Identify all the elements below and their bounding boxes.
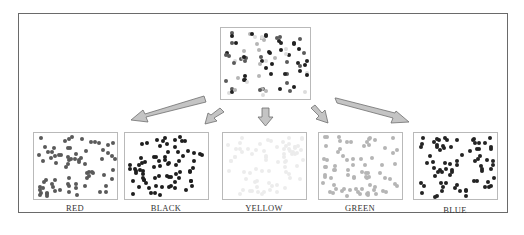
dot (346, 173, 350, 177)
dot (254, 167, 258, 171)
dot (128, 167, 132, 171)
dot (174, 163, 178, 167)
arrow-to-blue (335, 98, 409, 123)
dot (244, 177, 248, 181)
dot (295, 151, 299, 155)
dot (455, 183, 459, 187)
dot (276, 160, 280, 164)
dot (460, 153, 464, 157)
dot (421, 136, 425, 140)
dot (422, 184, 426, 188)
dot (53, 178, 57, 182)
dot (338, 147, 342, 151)
dot (324, 144, 328, 148)
arrow-to-black (205, 108, 224, 124)
dot (328, 190, 332, 194)
dot (87, 174, 91, 178)
dot (431, 160, 435, 164)
dot (137, 185, 141, 189)
arrow-to-green (311, 105, 328, 123)
dot (383, 146, 387, 150)
dot (227, 169, 231, 173)
dot (391, 151, 395, 155)
dot (340, 189, 344, 193)
dot (173, 145, 177, 149)
dot (492, 176, 496, 180)
dot (288, 176, 292, 180)
dot (74, 152, 78, 156)
dot (464, 188, 468, 192)
dot (173, 180, 177, 184)
dot (41, 186, 45, 190)
dot (250, 152, 254, 156)
dot (188, 170, 192, 174)
dot (373, 138, 377, 142)
dot (351, 157, 355, 161)
dot (157, 159, 161, 163)
dot (137, 163, 141, 167)
dot (74, 186, 78, 190)
dot (67, 176, 71, 180)
dot (177, 159, 181, 163)
dot (73, 157, 77, 161)
dot (365, 140, 369, 144)
yellow-label: YELLOW (219, 203, 309, 213)
dot (173, 138, 177, 142)
dot (173, 186, 177, 190)
dot (366, 193, 370, 197)
dot (98, 190, 102, 194)
red-label: RED (30, 203, 120, 213)
dot (455, 138, 459, 142)
dot (83, 162, 87, 166)
dot (63, 139, 67, 143)
dot (163, 155, 167, 159)
dot (177, 176, 181, 180)
dot (45, 192, 49, 196)
dot (158, 144, 162, 148)
dot (189, 179, 193, 183)
dot (100, 157, 104, 161)
dot (458, 189, 462, 193)
dot (275, 145, 279, 149)
dot (334, 187, 338, 191)
dot (229, 159, 233, 163)
dot (420, 191, 424, 195)
dot (345, 140, 349, 144)
dot (298, 177, 302, 181)
dot (346, 168, 350, 172)
dot (267, 181, 271, 185)
dot (325, 158, 329, 162)
dot (38, 193, 42, 197)
dot (489, 145, 493, 149)
dot (373, 185, 377, 189)
dot (425, 161, 429, 165)
dot (152, 165, 156, 169)
dot (240, 136, 244, 140)
dot (395, 148, 399, 152)
black-panel (124, 132, 209, 200)
dot (54, 161, 58, 165)
dot (283, 160, 287, 164)
dot (287, 136, 291, 140)
dot (380, 163, 384, 167)
dot (83, 184, 87, 188)
dot (295, 164, 299, 168)
dot (145, 141, 149, 145)
dot (255, 179, 259, 183)
dot (483, 141, 487, 145)
dot (192, 159, 196, 163)
dot (448, 173, 452, 177)
dot (131, 192, 135, 196)
dot (440, 170, 444, 174)
dot (58, 188, 62, 192)
dot (238, 147, 242, 151)
dot (464, 194, 468, 198)
dot (97, 141, 101, 145)
arrow-to-red (131, 96, 206, 122)
dot (166, 150, 170, 154)
dot (491, 163, 495, 167)
dot (360, 187, 364, 191)
dot (250, 189, 254, 193)
dot (50, 182, 54, 186)
dot (374, 192, 378, 196)
